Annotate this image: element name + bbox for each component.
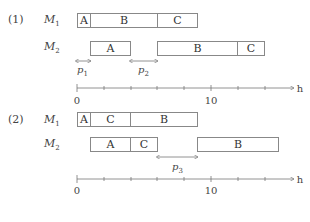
diagram-lines [0, 0, 310, 222]
part-2-time-axis [77, 175, 294, 183]
part-1-time-axis [77, 84, 294, 92]
